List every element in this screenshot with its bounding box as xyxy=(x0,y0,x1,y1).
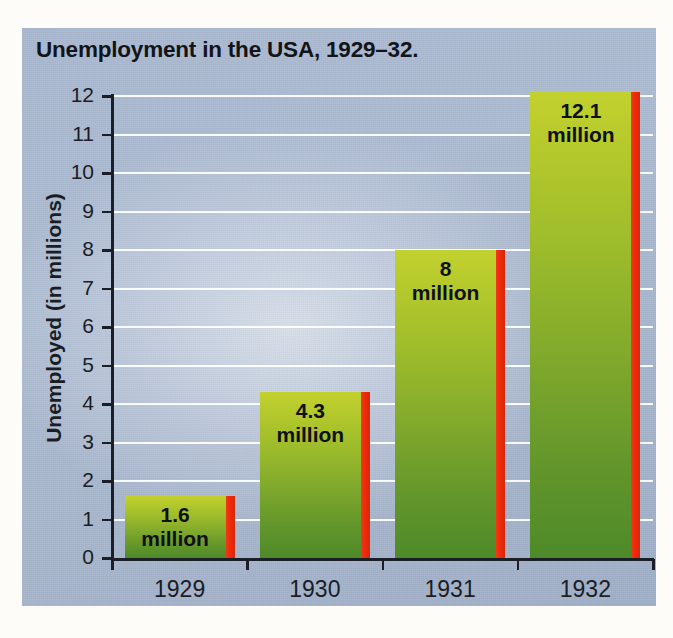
y-axis-tick-label: 11 xyxy=(30,122,94,146)
y-axis-tick xyxy=(102,288,112,291)
y-axis-tick-label: 12 xyxy=(30,83,94,107)
y-axis-tick xyxy=(102,365,112,368)
y-axis-tick xyxy=(102,480,112,483)
x-axis-tick xyxy=(246,559,249,570)
bar-edge-stripe xyxy=(361,392,370,558)
y-axis-tick xyxy=(102,442,112,445)
bar-edge-stripe xyxy=(496,250,505,558)
y-axis-tick xyxy=(102,211,112,214)
x-axis-tick-label: 1929 xyxy=(110,576,250,603)
y-axis-tick-label: 1 xyxy=(30,507,94,531)
y-axis-title: Unemployed (in millions) xyxy=(42,158,66,478)
chart-title: Unemployment in the USA, 1929–32. xyxy=(36,37,418,63)
y-axis-tick xyxy=(102,403,112,406)
x-axis-tick xyxy=(652,559,655,570)
bar-fill xyxy=(260,392,361,558)
x-axis-tick xyxy=(111,559,114,570)
y-axis-tick xyxy=(102,326,112,329)
x-axis-tick xyxy=(517,559,520,570)
x-axis-tick-label: 1932 xyxy=(515,576,655,603)
bar-fill xyxy=(125,496,226,558)
x-axis-tick-label: 1931 xyxy=(380,576,520,603)
bar[interactable]: 1.6million xyxy=(125,496,235,558)
y-axis-tick xyxy=(102,249,112,252)
chart-panel: Unemployment in the USA, 1929–32. Unempl… xyxy=(22,28,656,606)
bar-edge-stripe xyxy=(226,496,235,558)
x-axis-tick xyxy=(382,559,385,570)
x-axis-tick-label: 1930 xyxy=(245,576,385,603)
y-axis-tick xyxy=(102,95,112,98)
bar[interactable]: 8million xyxy=(395,250,505,558)
bar[interactable]: 12.1million xyxy=(530,92,640,558)
y-axis-tick xyxy=(102,519,112,522)
bar-fill xyxy=(395,250,496,558)
page-canvas: Unemployment in the USA, 1929–32. Unempl… xyxy=(0,0,673,638)
bar-edge-stripe xyxy=(631,92,640,558)
bar[interactable]: 4.3million xyxy=(260,392,370,558)
y-axis-tick xyxy=(102,172,112,175)
bar-fill xyxy=(530,92,631,558)
plot-area: 1.6million4.3million8million12.1million xyxy=(112,96,653,558)
y-axis-tick-label: 0 xyxy=(30,545,94,569)
y-axis-tick xyxy=(102,134,112,137)
